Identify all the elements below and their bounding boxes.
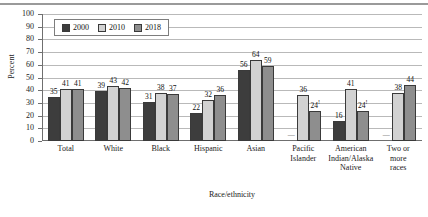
legend-swatch-icon — [62, 24, 70, 32]
top-divider-rule — [0, 3, 428, 5]
x-tick-label: Hispanic — [185, 144, 233, 173]
legend-item[interactable]: 2018 — [134, 23, 161, 32]
bar-2010-total[interactable] — [60, 89, 72, 141]
bar-2000-white[interactable] — [95, 91, 107, 141]
bar-2018-black[interactable] — [167, 94, 179, 141]
bar-group: 223236 — [185, 14, 233, 141]
bar-value-label: 56 — [240, 61, 248, 69]
x-tick-label: PacificIslander — [280, 144, 328, 173]
bar-slot: 44 — [404, 14, 416, 141]
no-data-marker: — — [288, 131, 295, 139]
bar-2018-asian[interactable] — [262, 66, 274, 141]
legend-item[interactable]: 2000 — [62, 23, 89, 32]
bar-value-label: 43 — [110, 77, 118, 85]
x-axis-tick-labels: TotalWhiteBlackHispanicAsianPacificIslan… — [42, 144, 422, 173]
bar-2010-white[interactable] — [107, 86, 119, 141]
bar-2018-total[interactable] — [72, 89, 84, 141]
data-flag-icon: ! — [366, 99, 368, 105]
legend-swatch-icon — [134, 24, 142, 32]
bar-value-label: 64 — [252, 51, 260, 59]
bar-group: —3624! — [280, 14, 328, 141]
y-tick-label: 50 — [10, 74, 34, 82]
bar-2010-pacific-islander[interactable] — [297, 95, 309, 141]
bar-2000-total[interactable] — [48, 97, 60, 141]
y-tick-label: 70 — [10, 48, 34, 56]
bar-2018-two-or-more-races[interactable] — [404, 85, 416, 141]
legend-label: 2018 — [145, 23, 161, 32]
bar-value-label: 41 — [347, 80, 355, 88]
bar-2010-asian[interactable] — [250, 60, 262, 141]
bar-value-label: 35 — [50, 88, 58, 96]
bar-slot: 38 — [392, 14, 404, 141]
bar-value-label: 41 — [74, 80, 82, 88]
x-tick-label: Total — [42, 144, 90, 173]
bar-chart-figure: Percent 0102030405060708090100 354141394… — [0, 0, 428, 217]
bar-value-label: 31 — [145, 93, 153, 101]
x-tick-label: Asian — [232, 144, 280, 173]
bar-slot: 59 — [262, 14, 274, 141]
bar-group: —3844 — [375, 14, 423, 141]
y-tick-label: 10 — [10, 124, 34, 132]
bar-value-label: 38 — [157, 84, 165, 92]
bar-value-label: 32 — [205, 91, 213, 99]
x-tick-label: AmericanIndian/AlaskaNative — [327, 144, 375, 173]
bar-group: 566459 — [232, 14, 280, 141]
bar-value-label: 22 — [193, 104, 201, 112]
bar-2010-two-or-more-races[interactable] — [392, 93, 404, 141]
y-tick-label: 80 — [10, 35, 34, 43]
y-tick-label: 30 — [10, 99, 34, 107]
y-tick-mark — [38, 141, 42, 142]
y-tick-label: 60 — [10, 61, 34, 69]
bar-slot: 41 — [345, 14, 357, 141]
bar-2000-asian[interactable] — [238, 70, 250, 141]
bar-slot: 36 — [214, 14, 226, 141]
bar-slot: 64 — [250, 14, 262, 141]
bar-2018-pacific-islander[interactable] — [309, 111, 321, 141]
bar-value-label: 41 — [62, 80, 70, 88]
bar-value-label: 16 — [335, 112, 343, 120]
bar-2010-black[interactable] — [155, 93, 167, 141]
bar-slot: 24! — [357, 14, 369, 141]
bar-value-label: 36 — [217, 86, 225, 94]
bar-slot: — — [380, 14, 392, 141]
bar-group: 164124! — [327, 14, 375, 141]
legend-item[interactable]: 2010 — [98, 23, 125, 32]
bar-value-label: 24! — [358, 98, 368, 110]
bar-slot: 56 — [238, 14, 250, 141]
bar-slot: 22 — [190, 14, 202, 141]
bar-value-label: 38 — [395, 84, 403, 92]
data-flag-icon: ! — [318, 99, 320, 105]
x-tick-label: Black — [137, 144, 185, 173]
bar-value-label: 42 — [122, 79, 130, 87]
bar-slot: — — [285, 14, 297, 141]
bar-2010-american-indian-alaska-native[interactable] — [345, 89, 357, 141]
bar-value-label: 59 — [264, 57, 272, 65]
bar-value-label: 24! — [311, 98, 321, 110]
legend-swatch-icon — [98, 24, 106, 32]
y-tick-label: 0 — [10, 137, 34, 145]
y-tick-label: 40 — [10, 86, 34, 94]
y-tick-label: 20 — [10, 112, 34, 120]
legend-label: 2000 — [73, 23, 89, 32]
bar-slot: 36 — [297, 14, 309, 141]
no-data-marker: — — [383, 131, 390, 139]
bar-value-label: 37 — [169, 85, 177, 93]
bar-2018-hispanic[interactable] — [214, 95, 226, 141]
bar-slot: 16 — [333, 14, 345, 141]
x-tick-label: White — [90, 144, 138, 173]
y-tick-label: 90 — [10, 23, 34, 31]
x-axis-title: Race/ethnicity — [42, 190, 422, 199]
bar-2018-white[interactable] — [119, 88, 131, 141]
bar-slot: 24! — [309, 14, 321, 141]
bar-2000-american-indian-alaska-native[interactable] — [333, 121, 345, 141]
bar-2000-black[interactable] — [143, 102, 155, 141]
legend-label: 2010 — [109, 23, 125, 32]
bar-2018-american-indian-alaska-native[interactable] — [357, 111, 369, 141]
y-tick-label: 100 — [10, 10, 34, 18]
bar-value-label: 39 — [98, 82, 106, 90]
bar-value-label: 36 — [300, 86, 308, 94]
bar-slot: 32 — [202, 14, 214, 141]
bar-2000-hispanic[interactable] — [190, 113, 202, 141]
bar-2010-hispanic[interactable] — [202, 100, 214, 141]
chart-legend: 200020102018 — [54, 19, 169, 36]
